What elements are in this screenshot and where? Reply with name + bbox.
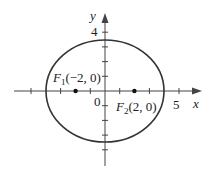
y-axis [102, 13, 109, 166]
focus-2-point [132, 89, 136, 93]
focus-1-coords: (−2, 0) [65, 70, 101, 85]
y-tick-label: 4 [91, 24, 98, 39]
focus-1-point [73, 89, 77, 93]
focus-1-label: F1(−2, 0) [52, 70, 101, 87]
x-axis-arrow-icon [192, 88, 202, 95]
y-axis-label: y [88, 8, 96, 23]
focus-2-label: F2(2, 0) [115, 99, 157, 116]
focus-2-coords: (2, 0) [128, 99, 156, 114]
ellipse-figure: y 4 0 5 x F1(−2, 0) F2(2, 0) [0, 0, 214, 175]
origin-label: 0 [94, 94, 101, 109]
y-axis-arrow-icon [102, 13, 109, 23]
x-axis-label: x [192, 96, 199, 111]
x-axis [14, 88, 202, 95]
x-tick-label: 5 [173, 97, 180, 112]
